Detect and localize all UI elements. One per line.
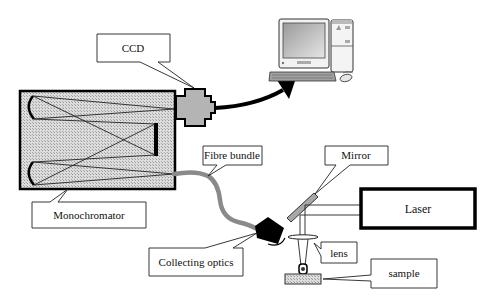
- collecting-optics-callout: Collecting optics: [149, 233, 257, 276]
- focus-cone: [298, 239, 308, 266]
- laser: Laser: [361, 189, 475, 228]
- focal-spot: [299, 264, 307, 274]
- collecting-optics-label: Collecting optics: [159, 256, 234, 268]
- fibre-bundle-callout: Fibre bundle: [203, 146, 262, 176]
- computer-icon: [269, 19, 353, 83]
- laser-label: Laser: [405, 202, 432, 216]
- fibre-bundle-label: Fibre bundle: [204, 149, 260, 161]
- monochromator: [20, 91, 175, 189]
- mirror-callout: Mirror: [315, 146, 388, 194]
- lens: [288, 235, 318, 239]
- sample: [285, 274, 321, 284]
- fibre-bundle: [174, 172, 262, 232]
- ccd-detector: [176, 89, 215, 126]
- grating-icon: [154, 123, 158, 156]
- data-arrow: [215, 78, 296, 108]
- ccd-callout: CCD: [97, 34, 194, 88]
- collecting-optics: [255, 217, 285, 245]
- monochromator-callout: Monochromator: [32, 189, 146, 228]
- sample-label: sample: [388, 267, 419, 279]
- setup-diagram: Laser CCD Monochromator Fibre bundle Mir…: [0, 0, 492, 305]
- laser-beam: [300, 205, 360, 236]
- mirror-label: Mirror: [341, 149, 371, 161]
- ccd-label: CCD: [122, 42, 145, 54]
- mirror: [287, 193, 318, 222]
- monochromator-label: Monochromator: [53, 209, 125, 221]
- lens-label: lens: [330, 247, 348, 259]
- lens-callout: lens: [314, 242, 357, 263]
